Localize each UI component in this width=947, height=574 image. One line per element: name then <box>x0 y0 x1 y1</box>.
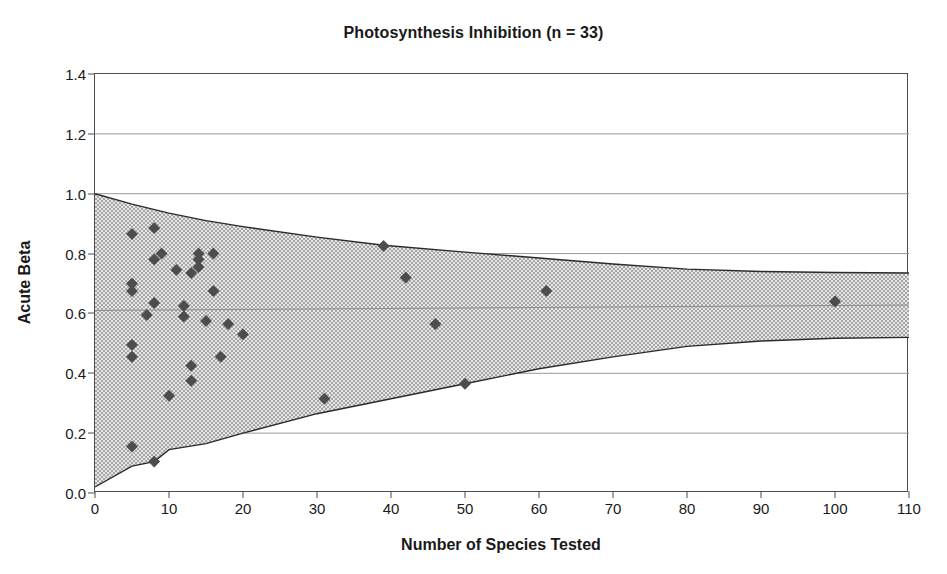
x-tick-mark <box>169 491 170 498</box>
funnel-plot-figure: Photosynthesis Inhibition (n = 33) Acute… <box>0 0 947 574</box>
y-tick-mark <box>88 373 95 374</box>
y-tick-label: 0.6 <box>65 305 86 322</box>
y-tick-mark <box>88 433 95 434</box>
x-axis-title: Number of Species Tested <box>94 536 908 554</box>
y-tick-label: 1.4 <box>65 66 86 83</box>
x-tick-label: 0 <box>91 500 99 517</box>
x-tick-mark <box>317 491 318 498</box>
y-tick-label: 1.0 <box>65 185 86 202</box>
x-tick-label: 10 <box>161 500 178 517</box>
y-tick-mark <box>88 74 95 75</box>
x-tick-mark <box>909 491 910 498</box>
plot-area: 0.00.20.40.60.81.01.21.4 010203040506070… <box>94 73 908 492</box>
y-tick-mark <box>88 313 95 314</box>
y-tick-label: 0.2 <box>65 425 86 442</box>
x-tick-mark <box>391 491 392 498</box>
x-tick-mark <box>613 491 614 498</box>
x-tick-label: 60 <box>531 500 548 517</box>
x-tick-label: 20 <box>235 500 252 517</box>
x-tick-mark <box>761 491 762 498</box>
x-tick-mark <box>95 491 96 498</box>
x-tick-label: 100 <box>822 500 847 517</box>
x-tick-mark <box>835 491 836 498</box>
x-tick-label: 40 <box>383 500 400 517</box>
y-axis-title: Acute Beta <box>12 73 38 492</box>
x-tick-label: 70 <box>605 500 622 517</box>
y-tick-mark <box>88 193 95 194</box>
chart-title: Photosynthesis Inhibition (n = 33) <box>0 24 947 42</box>
plot-canvas <box>95 74 909 493</box>
x-tick-mark <box>687 491 688 498</box>
y-tick-label: 0.4 <box>65 365 86 382</box>
x-tick-mark <box>243 491 244 498</box>
y-tick-mark <box>88 133 95 134</box>
x-tick-mark <box>465 491 466 498</box>
y-tick-label: 1.2 <box>65 125 86 142</box>
y-tick-label: 0.8 <box>65 245 86 262</box>
x-tick-label: 110 <box>897 500 921 517</box>
x-tick-label: 80 <box>679 500 696 517</box>
y-tick-label: 0.0 <box>65 485 86 502</box>
x-tick-mark <box>539 491 540 498</box>
x-tick-label: 30 <box>309 500 326 517</box>
y-tick-mark <box>88 253 95 254</box>
x-tick-label: 50 <box>457 500 474 517</box>
x-tick-label: 90 <box>753 500 770 517</box>
